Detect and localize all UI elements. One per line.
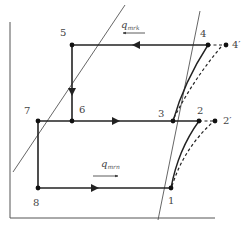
arrow-5-6 [68, 88, 76, 96]
label-2: 2 [197, 105, 203, 116]
label-4p: 4′ [232, 39, 241, 50]
arrow-6-3 [112, 117, 120, 125]
heat-label-upper: qmrk [121, 19, 140, 31]
label-1: 1 [168, 195, 174, 206]
label-3: 3 [158, 108, 164, 119]
point-8 [36, 186, 41, 191]
point-7 [36, 119, 41, 124]
cycle-diagram: 1 2 2′ 3 4 4′ 5 6 7 8 qmrk qmrn [0, 0, 243, 239]
point-5 [70, 43, 75, 48]
point-2p [213, 119, 218, 124]
label-5: 5 [60, 27, 66, 38]
label-8: 8 [33, 197, 39, 208]
point-4p [224, 43, 229, 48]
compression-1-2 [171, 121, 199, 188]
arrow-4-5 [132, 41, 140, 49]
point-4 [206, 43, 211, 48]
arrow-8-1 [91, 184, 99, 192]
label-6: 6 [79, 104, 85, 115]
heat-label-lower: qmrn [101, 158, 120, 170]
point-2 [197, 119, 202, 124]
point-1 [169, 186, 174, 191]
label-2p: 2′ [223, 115, 232, 126]
label-4: 4 [200, 28, 206, 39]
point-6 [70, 119, 75, 124]
label-7: 7 [24, 105, 30, 116]
point-3 [171, 119, 176, 124]
